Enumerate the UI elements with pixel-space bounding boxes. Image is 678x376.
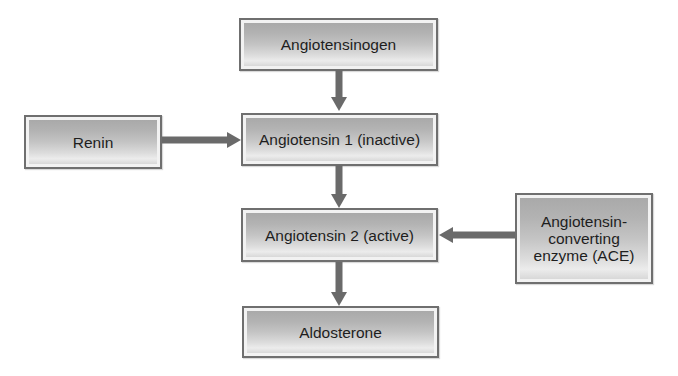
arrow-right-icon (162, 131, 242, 149)
node-ace: Angiotensin- converting enzyme (ACE) (515, 193, 653, 284)
arrow-down-icon (330, 262, 348, 307)
node-ace-label-line-2: converting (548, 230, 620, 247)
node-angiotensin-2-label: Angiotensin 2 (active) (246, 213, 433, 257)
node-angiotensin-2: Angiotensin 2 (active) (241, 208, 438, 262)
node-angiotensinogen-label: Angiotensinogen (244, 23, 433, 66)
arrow-left-icon (438, 226, 516, 244)
node-renin: Renin (24, 115, 162, 169)
node-aldosterone-label: Aldosterone (247, 311, 434, 353)
node-angiotensin-1: Angiotensin 1 (inactive) (241, 113, 438, 166)
node-angiotensinogen: Angiotensinogen (239, 18, 438, 71)
node-ace-label: Angiotensin- converting enzyme (ACE) (520, 198, 648, 279)
node-ace-label-line-1: Angiotensin- (541, 213, 627, 230)
arrow-down-icon (330, 70, 348, 112)
node-ace-label-line-3: enzyme (ACE) (534, 247, 635, 264)
node-renin-label: Renin (29, 120, 157, 164)
node-aldosterone: Aldosterone (242, 306, 439, 358)
arrow-down-icon (330, 165, 348, 209)
node-angiotensin-1-label: Angiotensin 1 (inactive) (246, 118, 433, 161)
